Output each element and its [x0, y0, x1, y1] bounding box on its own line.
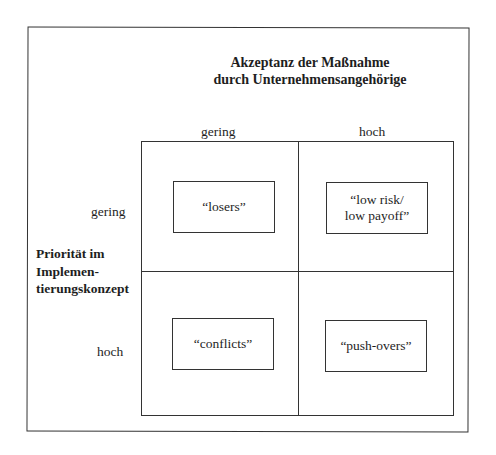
- row-axis-title: Priorität im Implemen- tierungskonzept: [36, 245, 129, 298]
- quadrant-conflicts-label: “conflicts”: [194, 336, 252, 352]
- quadrant-push-overs-label: “push-overs”: [340, 338, 411, 354]
- quadrant-low-risk-line1: “low risk/: [350, 192, 404, 207]
- quadrant-low-risk-low-payoff-label: “low risk/ low payoff”: [345, 192, 410, 224]
- column-axis-title-line1: Akzeptanz der Maßnahme: [150, 54, 470, 71]
- quadrant-conflicts: “conflicts”: [172, 318, 274, 370]
- quadrant-low-risk-line2: low payoff”: [345, 208, 410, 223]
- row-axis-title-line3: tierungskonzept: [36, 280, 129, 298]
- row-label-hoch: hoch: [97, 344, 123, 360]
- column-axis-title-line2: durch Unternehmensangehörige: [150, 71, 470, 88]
- column-axis-title: Akzeptanz der Maßnahme durch Unternehmen…: [150, 54, 470, 88]
- row-axis-title-line1: Priorität im: [36, 245, 129, 263]
- quadrant-losers: “losers”: [173, 181, 275, 233]
- quadrant-low-risk-low-payoff: “low risk/ low payoff”: [326, 182, 428, 234]
- column-label-gering: gering: [201, 124, 236, 140]
- row-label-gering: gering: [91, 204, 126, 220]
- quadrant-push-overs: “push-overs”: [325, 320, 427, 372]
- row-axis-title-line2: Implemen-: [36, 263, 129, 281]
- column-label-hoch: hoch: [359, 124, 385, 140]
- quadrant-losers-label: “losers”: [202, 199, 245, 215]
- matrix-horizontal-divider: [141, 271, 454, 272]
- matrix-vertical-divider: [298, 141, 299, 416]
